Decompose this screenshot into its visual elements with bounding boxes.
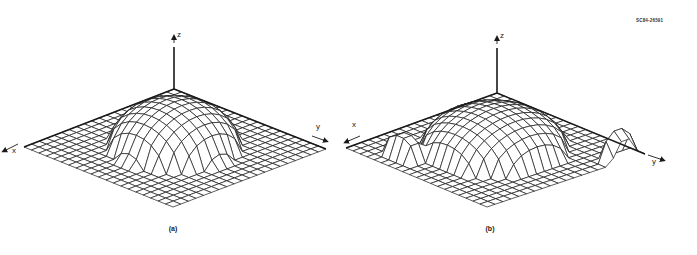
- x-axis-label-a: x: [12, 146, 16, 155]
- surface-plot-b: [346, 38, 663, 207]
- y-axis-label-b: y: [652, 157, 656, 166]
- caption-a: (a): [169, 225, 178, 232]
- surface-plot-a: [4, 37, 326, 207]
- x-axis-label-b: x: [352, 120, 356, 129]
- y-axis-label-a: y: [316, 122, 320, 131]
- figure-canvas: [0, 0, 697, 255]
- z-axis-label-b: z: [500, 31, 504, 40]
- z-axis-label-a: z: [177, 30, 181, 39]
- caption-b: (b): [486, 225, 495, 232]
- figure-code: SC84-26591: [636, 18, 663, 23]
